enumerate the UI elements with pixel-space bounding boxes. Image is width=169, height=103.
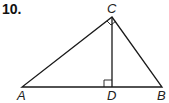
label-a: A: [17, 88, 26, 103]
right-angle-mark-d: [104, 80, 112, 87]
label-d: D: [107, 88, 116, 103]
label-b: B: [157, 88, 166, 103]
triangle-abc: [22, 17, 162, 87]
label-c: C: [107, 1, 116, 16]
